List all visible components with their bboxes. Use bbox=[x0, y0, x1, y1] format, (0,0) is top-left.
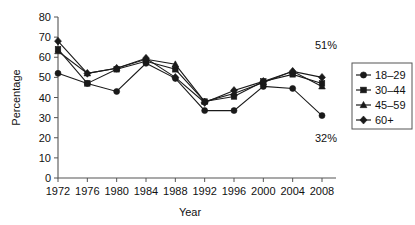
y-tick-label: 60 bbox=[39, 51, 51, 63]
x-tick-label: 1980 bbox=[104, 185, 128, 197]
x-tick-label: 1996 bbox=[222, 185, 246, 197]
x-tick-label: 2000 bbox=[251, 185, 275, 197]
x-tick-label: 1976 bbox=[75, 185, 99, 197]
x-axis-title: Year bbox=[179, 206, 202, 218]
data-point bbox=[55, 70, 61, 76]
axis-lines bbox=[58, 17, 336, 178]
x-tick-label: 2004 bbox=[280, 185, 304, 197]
legend-entry-label: 18–29 bbox=[375, 69, 406, 81]
legend-entry-label: 30–44 bbox=[375, 84, 406, 96]
y-tick-label: 0 bbox=[45, 172, 51, 184]
legend: 18–2930–4445–5960+ bbox=[352, 63, 412, 129]
data-point bbox=[85, 81, 91, 87]
x-tick-label: 1988 bbox=[163, 185, 187, 197]
data-point bbox=[231, 87, 238, 95]
y-tick-label: 30 bbox=[39, 112, 51, 124]
series-60+ bbox=[55, 37, 326, 106]
annotations: 51%32% bbox=[315, 39, 337, 143]
legend-marker-square-icon bbox=[361, 87, 367, 93]
series-line bbox=[58, 41, 322, 102]
legend-entry-label: 45–59 bbox=[375, 99, 406, 111]
y-axis-title: Percentage bbox=[10, 69, 22, 125]
data-point bbox=[114, 88, 120, 94]
annotation-label: 51% bbox=[315, 39, 337, 51]
data-point bbox=[231, 108, 237, 114]
y-tick-label: 40 bbox=[39, 92, 51, 104]
y-tick-label: 80 bbox=[39, 11, 51, 23]
annotation-label: 32% bbox=[315, 132, 337, 144]
x-tick-label: 1984 bbox=[134, 185, 158, 197]
series-30-44 bbox=[55, 46, 325, 104]
x-tick-label: 2008 bbox=[310, 185, 334, 197]
x-tick-label: 1992 bbox=[192, 185, 216, 197]
y-tick-label: 20 bbox=[39, 132, 51, 144]
legend-marker-circle-icon bbox=[360, 72, 366, 78]
y-tick-label: 10 bbox=[39, 152, 51, 164]
y-tick-label: 50 bbox=[39, 71, 51, 83]
x-tick-label: 1972 bbox=[46, 185, 70, 197]
chart-figure: 0102030405060708019721976198019841988199… bbox=[0, 0, 415, 225]
line-chart: 0102030405060708019721976198019841988199… bbox=[0, 0, 415, 225]
y-tick-label: 70 bbox=[39, 31, 51, 43]
data-point bbox=[319, 73, 326, 81]
data-point bbox=[202, 108, 208, 114]
data-point bbox=[319, 113, 325, 119]
data-point bbox=[290, 85, 296, 91]
legend-entry-label: 60+ bbox=[375, 114, 394, 126]
